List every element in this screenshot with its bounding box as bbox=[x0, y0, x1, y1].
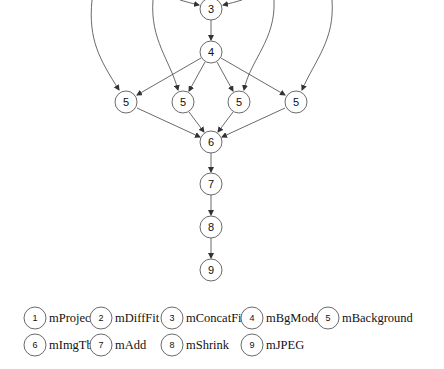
legend-item-mImgTbl: 6mImgTbl bbox=[24, 334, 97, 356]
legend-item-mConcatFit: 3mConcatFit bbox=[161, 307, 246, 329]
node-n6: 6 bbox=[200, 131, 222, 153]
node-label: 7 bbox=[208, 178, 214, 190]
legend-label: mImgTbl bbox=[49, 338, 97, 352]
legend-label: mShrink bbox=[186, 338, 230, 352]
node-label: 5 bbox=[293, 96, 299, 108]
legend-item-mShrink: 8mShrink bbox=[161, 334, 230, 356]
legend-item-mBackground: 5mBackground bbox=[317, 307, 414, 329]
node-label: 5 bbox=[123, 96, 129, 108]
legend-number: 9 bbox=[249, 340, 254, 350]
legend-number: 2 bbox=[98, 313, 103, 323]
legend-item-mBgModel: 4mBgModel bbox=[241, 307, 323, 329]
legend-number: 7 bbox=[98, 340, 103, 350]
node-n5a: 5 bbox=[115, 91, 137, 113]
legend-number: 5 bbox=[325, 313, 330, 323]
legend-number: 6 bbox=[32, 340, 37, 350]
legend-item-mDiffFit: 2mDiffFit bbox=[90, 307, 160, 329]
node-n4: 4 bbox=[200, 41, 222, 63]
legend-item-mAdd: 7mAdd bbox=[90, 334, 147, 356]
legend-label: mJPEG bbox=[266, 338, 304, 352]
node-n3: 3 bbox=[200, 0, 222, 20]
node-label: 6 bbox=[208, 136, 214, 148]
legend-label: mConcatFit bbox=[186, 311, 246, 325]
legend-label: mBgModel bbox=[266, 311, 323, 325]
legend-label: mDiffFit bbox=[115, 311, 160, 325]
node-n5d: 5 bbox=[285, 91, 307, 113]
legend-number: 3 bbox=[169, 313, 174, 323]
node-n5b: 5 bbox=[172, 91, 194, 113]
legend-item-mJPEG: 9mJPEG bbox=[241, 334, 304, 356]
node-label: 5 bbox=[236, 96, 242, 108]
node-n9: 9 bbox=[200, 259, 222, 281]
node-label: 9 bbox=[208, 264, 214, 276]
legend: 1mProjectPP2mDiffFit3mConcatFit4mBgModel… bbox=[24, 307, 414, 356]
workflow-diagram: 3455556789 1mProjectPP2mDiffFit3mConcatF… bbox=[0, 0, 444, 369]
legend-label: mBackground bbox=[342, 311, 414, 325]
legend-number: 8 bbox=[169, 340, 174, 350]
node-label: 5 bbox=[180, 96, 186, 108]
node-label: 4 bbox=[208, 46, 214, 58]
legend-number: 4 bbox=[249, 313, 254, 323]
node-label: 8 bbox=[208, 221, 214, 233]
legend-number: 1 bbox=[32, 313, 37, 323]
node-label: 3 bbox=[208, 3, 214, 15]
node-n7: 7 bbox=[200, 173, 222, 195]
node-n5c: 5 bbox=[228, 91, 250, 113]
node-n8: 8 bbox=[200, 216, 222, 238]
legend-label: mAdd bbox=[115, 338, 147, 352]
